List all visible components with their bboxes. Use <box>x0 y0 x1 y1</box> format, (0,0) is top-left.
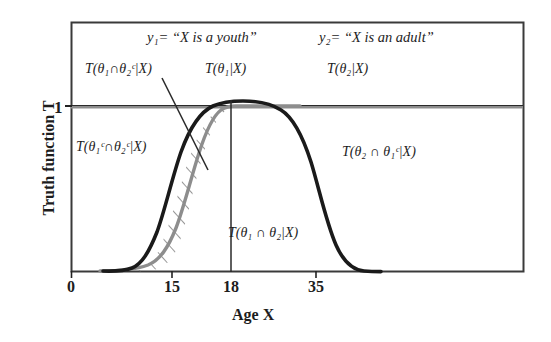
figure-container: y₁= “X is a youth” y₂= “X is an adult” T… <box>0 0 551 342</box>
x-axis-tick-label-35: 35 <box>308 278 324 296</box>
region-label-theta1-cap-theta2c: T(θ₁∩θ₂ᶜ|X) <box>85 62 152 76</box>
region-label-theta1-cap-theta2: T(θ₁ ∩ θ₂|X) <box>228 226 298 240</box>
truth-function-plot <box>0 0 551 342</box>
curve-adult-theta2 <box>100 106 300 271</box>
proposition-label-y1: y₁= “X is a youth” <box>147 30 257 45</box>
region-label-theta1c-cap-theta2c: T(θ₁ᶜ∩θ₂ᶜ|X) <box>76 140 146 154</box>
x-axis-tick-label-0: 0 <box>67 278 75 296</box>
x-axis-tick-label-15: 15 <box>164 278 180 296</box>
region-label-theta2: T(θ₂|X) <box>327 62 368 76</box>
region-label-theta1: T(θ₁|X) <box>205 62 246 76</box>
region-label-theta2-cap-theta1c: T(θ₂ ∩ θ₁ᶜ|X) <box>342 145 416 159</box>
curve-youth-theta1 <box>103 101 381 272</box>
x-axis-tick-label-18: 18 <box>223 278 239 296</box>
y-axis-tick-label-1: 1 <box>54 99 63 116</box>
leader-line-theta1-cap-theta2c <box>162 78 208 170</box>
proposition-label-y2: y₂= “X is an adult” <box>319 30 434 45</box>
x-axis-label: Age X <box>232 307 274 323</box>
